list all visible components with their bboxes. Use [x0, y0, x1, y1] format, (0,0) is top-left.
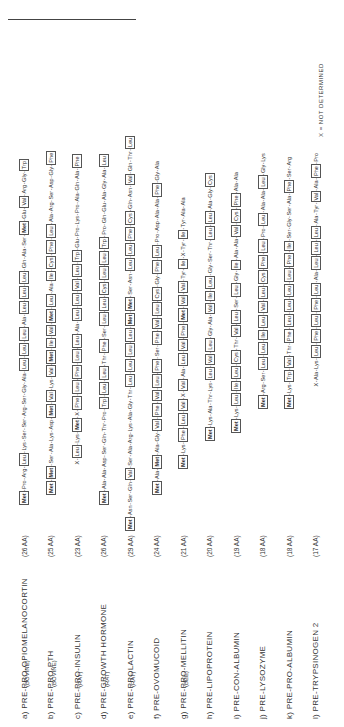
residue: Ala	[286, 195, 292, 204]
residue: Leu	[205, 276, 215, 289]
residue: Ile	[46, 338, 56, 348]
residue: Leu	[19, 327, 29, 340]
figure-signal-sequences: (BOVINE)a) PRE-PRO-OPIOMELANOCORTIN(26 A…	[0, 0, 344, 727]
bond: -	[180, 279, 186, 281]
length-label: (26 AA)	[21, 535, 28, 557]
bond: -	[74, 191, 80, 193]
bond: -	[154, 479, 160, 481]
bond: -	[74, 291, 80, 293]
bond: -	[21, 393, 27, 395]
bond: -	[48, 430, 54, 432]
bond: -	[127, 466, 133, 468]
residue: Phe	[72, 396, 82, 410]
bond: -	[286, 297, 292, 299]
protein-label: a) PRE-PRO-OPIOMELANOCORTIN	[20, 569, 29, 719]
bond: -	[127, 503, 133, 505]
bond: -	[260, 340, 266, 342]
residue: Asp	[48, 178, 54, 189]
protein-label: f) PRE-OVOMUCOID	[152, 569, 161, 719]
bond: -	[260, 382, 266, 384]
residue: Gly	[207, 264, 213, 273]
residue: Leu	[72, 381, 82, 394]
residue: Ser	[101, 328, 107, 338]
residue: Leu	[231, 393, 241, 406]
bond: -	[127, 387, 133, 389]
bond: -	[101, 190, 107, 192]
residue: Gln	[101, 434, 107, 444]
residue: Gln	[127, 162, 133, 172]
bond: -	[286, 267, 292, 269]
residue: Gln	[127, 482, 133, 492]
bond: -	[48, 212, 54, 214]
bond: -	[127, 271, 133, 273]
bond: -	[154, 274, 160, 276]
residue: Gly	[260, 164, 266, 173]
residue: Thr	[286, 345, 292, 354]
bond: -	[21, 246, 27, 248]
residue: Ala	[21, 248, 27, 257]
bond: -	[233, 297, 239, 299]
residue: Leu	[99, 382, 109, 395]
bond: -	[154, 442, 160, 444]
length-label: (20 AA)	[206, 535, 213, 557]
bond: -	[313, 239, 319, 241]
bond: -	[48, 188, 54, 190]
residue: Gln	[21, 259, 27, 269]
bond: -	[127, 241, 133, 243]
residue: Leu	[125, 258, 135, 271]
residue: Val	[46, 325, 56, 337]
bond: -	[154, 388, 160, 390]
bond: -	[21, 405, 27, 407]
residue: Leu	[258, 342, 268, 355]
residue: Leu	[152, 302, 162, 315]
residue: Arg	[21, 407, 27, 417]
bond: -	[74, 348, 80, 350]
residue: Met	[72, 418, 82, 432]
residue: Leu	[125, 374, 135, 387]
residue: Val	[178, 281, 188, 293]
bond: -	[21, 219, 27, 221]
bond: -	[233, 417, 239, 419]
bond: -	[286, 343, 292, 345]
residue: Ser	[48, 190, 54, 200]
residue: Asp	[154, 221, 160, 232]
bond: -	[313, 312, 319, 314]
bond: -	[313, 369, 319, 371]
residue: Leu	[258, 315, 268, 328]
residue: Gln	[127, 200, 133, 210]
bond: -	[101, 337, 107, 339]
bond: -	[48, 388, 54, 390]
bond: -	[74, 443, 80, 445]
bond: -	[154, 285, 160, 287]
bond: -	[48, 336, 54, 338]
bond: -	[74, 237, 80, 239]
residue: Ile	[46, 271, 56, 281]
residue: Val	[152, 390, 162, 402]
residue: Ala	[48, 283, 54, 292]
bond: -	[286, 251, 292, 253]
bond: -	[74, 168, 80, 170]
bond: -	[260, 211, 266, 213]
residue: Arg	[286, 156, 292, 166]
residue: Ser	[21, 395, 27, 405]
residue: Val	[231, 325, 241, 337]
residue: Met	[19, 221, 29, 235]
bond: -	[286, 312, 292, 314]
residue: Leu	[231, 283, 241, 296]
amino-acid-sequence: Met-Ala-Ala-Asp-Ser-Gln-Thr-Pro-Trp-Leu-…	[99, 154, 109, 505]
bond: -	[260, 269, 266, 271]
bond: -	[48, 281, 54, 283]
residue: Ala	[233, 238, 239, 247]
residue: Phe	[284, 180, 294, 194]
residue: Trp	[99, 397, 109, 409]
bond: -	[207, 425, 213, 427]
bond: -	[207, 352, 213, 354]
bond: -	[21, 325, 27, 327]
bond: -	[207, 337, 213, 339]
residue: Cys	[231, 350, 241, 364]
residue: Val	[46, 390, 56, 402]
residue: Ala	[154, 199, 160, 208]
residue: Leu	[311, 256, 321, 269]
bond: -	[48, 238, 54, 240]
residue: Met	[152, 481, 162, 495]
